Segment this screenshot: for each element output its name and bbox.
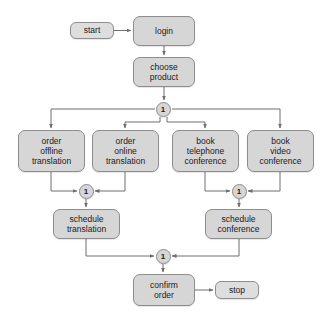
merge-final-node[interactable]: 1 — [156, 249, 171, 264]
edge-fork-to-order-online — [125, 117, 160, 128]
node-book-video-label-1: video — [270, 146, 290, 156]
node-choose-product-label-0: choose — [150, 62, 177, 72]
node-order-offline-label-2: translation — [32, 156, 71, 166]
edge-order-offline-to-merge-translation — [51, 172, 77, 191]
node-confirm-order-label-1: order — [154, 290, 174, 300]
node-order-offline-label-1: offline — [40, 146, 63, 156]
node-schedule-conference[interactable]: schedule conference — [205, 209, 272, 239]
node-book-telephone-label-2: conference — [184, 156, 226, 166]
node-login[interactable]: login — [133, 16, 195, 46]
node-book-telephone-label-0: book — [196, 136, 214, 146]
merge-final-label: 1 — [161, 252, 165, 261]
edge-fork-to-book-video — [172, 109, 280, 128]
node-book-telephone-label-1: telephone — [187, 146, 224, 156]
node-confirm-order-label-0: confirm — [150, 280, 178, 290]
edge-book-video-to-merge-conference — [248, 172, 280, 191]
edge-order-online-to-merge-translation — [95, 172, 125, 191]
node-schedule-conference-label-0: schedule — [221, 214, 255, 224]
node-choose-product[interactable]: choose product — [133, 57, 195, 87]
edge-fork-to-order-offline — [51, 109, 155, 128]
merge-conference-label: 1 — [237, 187, 241, 196]
node-book-video-label-0: book — [271, 136, 289, 146]
node-schedule-translation-label-1: translation — [67, 224, 106, 234]
node-book-video-conference[interactable]: book video conference — [247, 130, 314, 172]
node-schedule-conference-label-1: conference — [217, 224, 259, 234]
merge-translation-node[interactable]: 1 — [79, 184, 94, 199]
node-choose-product-label-1: product — [150, 72, 178, 82]
node-start-label-0: start — [84, 25, 101, 35]
edge-schedule-conference-to-merge-final — [172, 239, 239, 256]
fork-products-node[interactable]: 1 — [156, 102, 171, 117]
node-order-online-label-2: translation — [106, 156, 145, 166]
node-stop[interactable]: stop — [215, 281, 259, 299]
node-login-label-0: login — [155, 26, 173, 36]
node-order-offline-translation[interactable]: order offline translation — [18, 130, 85, 172]
node-book-video-label-2: conference — [259, 156, 301, 166]
node-schedule-translation[interactable]: schedule translation — [53, 209, 120, 239]
edge-schedule-translation-to-merge-final — [86, 239, 154, 256]
fork-products-label: 1 — [161, 105, 165, 114]
node-confirm-order[interactable]: confirm order — [133, 274, 195, 306]
node-start[interactable]: start — [70, 22, 114, 39]
node-order-online-label-0: order — [116, 136, 136, 146]
edge-fork-to-book-telephone — [167, 117, 205, 128]
node-schedule-translation-label-0: schedule — [69, 214, 103, 224]
merge-conference-node[interactable]: 1 — [232, 184, 247, 199]
node-book-telephone-conference[interactable]: book telephone conference — [172, 130, 239, 172]
node-order-online-translation[interactable]: order online translation — [92, 130, 159, 172]
node-order-offline-label-0: order — [42, 136, 62, 146]
merge-translation-label: 1 — [84, 187, 88, 196]
flowchart-canvas: start login choose product order offline… — [0, 0, 327, 324]
node-order-online-label-1: online — [114, 146, 137, 156]
edge-book-telephone-to-merge-conference — [205, 172, 230, 191]
node-stop-label-0: stop — [229, 285, 245, 295]
